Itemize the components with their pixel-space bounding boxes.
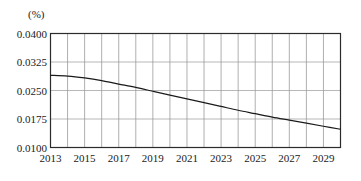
line-chart: (%) 0.04000.03250.02500.01750.0100 20132…	[0, 0, 361, 181]
data-series-line	[51, 75, 341, 129]
horizontal-gridlines	[51, 62, 341, 119]
plot-area	[0, 0, 361, 181]
